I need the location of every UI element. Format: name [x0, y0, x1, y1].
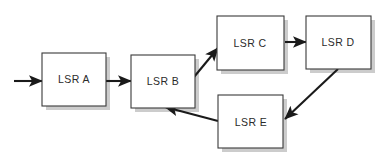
edge-d-e — [285, 69, 338, 119]
node-label-a: LSR A — [58, 73, 90, 85]
node-label-e: LSR E — [235, 116, 267, 128]
node-label-d: LSR D — [322, 36, 355, 48]
node-label-c: LSR C — [234, 37, 267, 49]
node-a[interactable]: LSR A — [42, 53, 106, 106]
node-d[interactable]: LSR D — [306, 16, 371, 69]
node-c[interactable]: LSR C — [217, 16, 284, 70]
node-b[interactable]: LSR B — [131, 55, 195, 108]
node-label-b: LSR B — [147, 75, 179, 87]
lsr-flow-diagram: LSR ALSR BLSR CLSR DLSR E — [0, 0, 392, 163]
node-layer: LSR ALSR BLSR CLSR DLSR E — [42, 16, 371, 148]
node-e[interactable]: LSR E — [218, 95, 283, 148]
diagram-canvas: LSR ALSR BLSR CLSR DLSR E — [0, 0, 392, 163]
